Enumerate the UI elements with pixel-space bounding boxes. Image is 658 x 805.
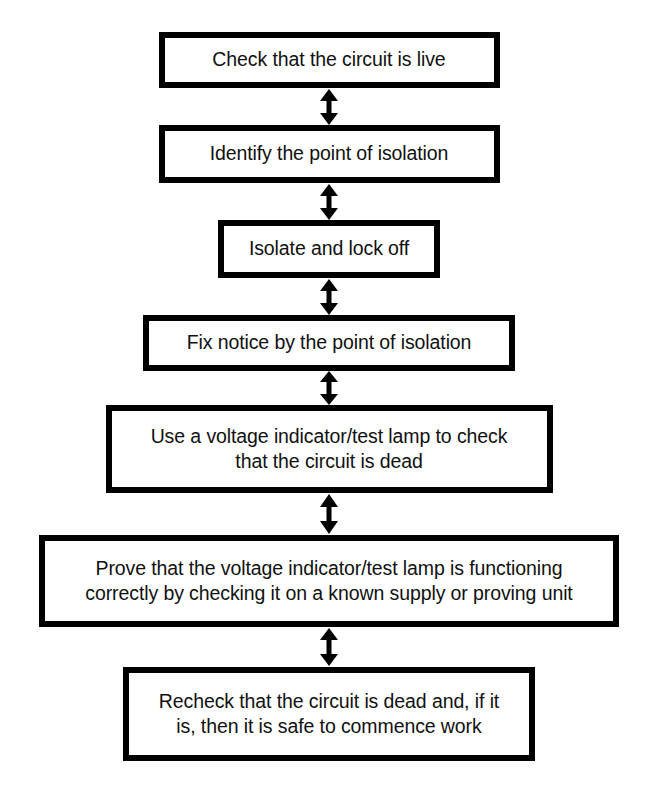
flowchart-step-6: Prove that the voltage indicator/test la… <box>0 535 658 627</box>
flowchart-step-1: Check that the circuit is live <box>0 32 658 88</box>
step-label: Check that the circuit is live <box>204 47 453 72</box>
double-arrow-icon <box>318 371 340 405</box>
step-label: Prove that the voltage indicator/test la… <box>77 556 580 607</box>
flowchart-step-7: Recheck that the circuit is dead and, if… <box>0 667 658 761</box>
connector-4 <box>0 371 658 405</box>
step-box-identify-point-of-isolation: Identify the point of isolation <box>159 125 500 183</box>
double-arrow-icon <box>318 89 340 125</box>
double-arrow-icon <box>318 184 340 220</box>
connector-6 <box>0 627 658 667</box>
step-box-use-voltage-indicator: Use a voltage indicator/test lamp to che… <box>106 405 553 493</box>
flowchart-diagram: Check that the circuit is live Identify … <box>0 0 658 805</box>
flowchart-step-5: Use a voltage indicator/test lamp to che… <box>0 405 658 493</box>
flowchart-step-2: Identify the point of isolation <box>0 125 658 183</box>
step-box-isolate-and-lock-off: Isolate and lock off <box>218 220 440 278</box>
double-arrow-icon <box>318 279 340 315</box>
step-box-recheck-circuit-dead: Recheck that the circuit is dead and, if… <box>123 667 535 761</box>
connector-5 <box>0 493 658 535</box>
connector-2 <box>0 183 658 220</box>
double-arrow-icon <box>318 628 340 666</box>
step-label: Isolate and lock off <box>241 236 417 261</box>
step-label: Recheck that the circuit is dead and, if… <box>151 689 507 740</box>
flowchart-step-4: Fix notice by the point of isolation <box>0 315 658 371</box>
connector-1 <box>0 88 658 125</box>
step-label: Use a voltage indicator/test lamp to che… <box>143 424 516 475</box>
step-label: Identify the point of isolation <box>202 141 457 166</box>
step-box-prove-voltage-indicator-functioning: Prove that the voltage indicator/test la… <box>39 535 619 627</box>
step-label: Fix notice by the point of isolation <box>179 330 480 355</box>
flowchart-step-3: Isolate and lock off <box>0 220 658 278</box>
step-box-check-circuit-live: Check that the circuit is live <box>159 32 500 88</box>
double-arrow-icon <box>318 494 340 534</box>
connector-3 <box>0 278 658 315</box>
step-box-fix-notice-by-point-of-isolation: Fix notice by the point of isolation <box>143 315 515 371</box>
